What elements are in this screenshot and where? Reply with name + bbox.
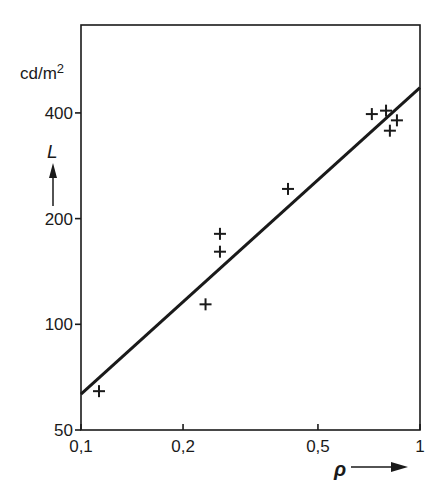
x-axis-symbol: ρ (333, 458, 346, 480)
scatter-chart: 0,10,20,51 50100200400 cd/m2 L ρ (0, 0, 441, 492)
y-axis-arrow-icon (49, 163, 57, 206)
y-unit-label: cd/m2 (20, 61, 64, 83)
plus-marker-icon (93, 385, 105, 397)
plus-marker-icon (384, 125, 396, 137)
regression-line (81, 88, 420, 394)
x-axis-ticks: 0,10,20,51 (69, 424, 425, 456)
plus-marker-icon (366, 108, 378, 120)
plot-frame (81, 25, 420, 430)
y-tick-label: 100 (45, 315, 73, 334)
plus-marker-icon (214, 228, 226, 240)
plus-marker-icon (391, 114, 403, 126)
x-tick-label: 0,5 (306, 437, 330, 456)
plus-marker-icon (282, 183, 294, 195)
y-axis-symbol: L (47, 141, 58, 162)
x-tick-label: 0,2 (171, 437, 195, 456)
plus-marker-icon (214, 246, 226, 258)
plus-marker-icon (200, 298, 212, 310)
fit-line (81, 88, 420, 394)
y-tick-label: 200 (45, 210, 73, 229)
x-axis-arrow-icon (351, 462, 408, 472)
y-tick-label: 400 (45, 104, 73, 123)
x-tick-label: 1 (415, 437, 424, 456)
data-points (93, 105, 403, 398)
y-tick-label: 50 (54, 421, 73, 440)
plot-border (81, 25, 420, 430)
